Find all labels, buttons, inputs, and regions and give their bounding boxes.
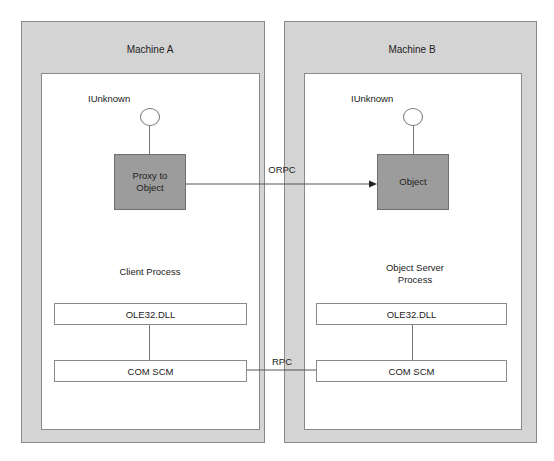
rpc-label: RPC [262,356,302,368]
orpc-label: ORPC [262,164,302,176]
orpc-arrowhead-icon [369,181,377,188]
connections-layer [0,0,554,461]
